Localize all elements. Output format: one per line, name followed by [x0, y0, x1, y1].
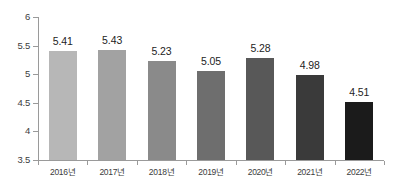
y-axis-tick-label: 5 — [2, 69, 30, 79]
bar-value-label: 5.41 — [40, 36, 86, 47]
y-axis-tick-label: 6 — [2, 12, 30, 22]
x-axis-category-label: 2017년 — [86, 168, 138, 177]
bar[interactable] — [246, 58, 274, 160]
x-axis-tick — [137, 161, 138, 165]
y-axis-tick-label: 4 — [2, 126, 30, 136]
bar-value-label: 5.05 — [188, 56, 234, 67]
x-axis-tick — [236, 161, 237, 165]
bar-value-label: 5.43 — [89, 35, 135, 46]
x-axis-line — [38, 160, 384, 161]
bar-value-label: 4.51 — [336, 87, 382, 98]
x-axis-tick — [186, 161, 187, 165]
y-axis-tick — [33, 103, 38, 104]
y-axis-tick — [33, 74, 38, 75]
y-axis-tick — [33, 46, 38, 47]
bar-value-label: 5.23 — [139, 46, 185, 57]
bar[interactable] — [98, 50, 126, 160]
bar[interactable] — [197, 71, 225, 160]
bar[interactable] — [49, 51, 77, 160]
x-axis-category-label: 2016년 — [37, 168, 89, 177]
bar-chart: 3.544.555.56 5.412016년5.432017년5.232018년… — [0, 0, 394, 190]
x-axis-tick — [335, 161, 336, 165]
y-axis-tick-label: 5.5 — [2, 41, 30, 51]
x-axis-tick — [38, 161, 39, 165]
bar-value-label: 5.28 — [237, 43, 283, 54]
x-axis-category-label: 2019년 — [185, 168, 237, 177]
x-axis-tick — [87, 161, 88, 165]
y-axis-tick — [33, 131, 38, 132]
bar[interactable] — [296, 75, 324, 160]
x-axis-category-label: 2022년 — [333, 168, 385, 177]
x-axis-tick — [384, 161, 385, 165]
x-axis-tick — [285, 161, 286, 165]
bar[interactable] — [148, 61, 176, 160]
bar[interactable] — [345, 102, 373, 160]
y-axis-tick — [33, 17, 38, 18]
x-axis-category-label: 2020년 — [234, 168, 286, 177]
x-axis-category-label: 2021년 — [284, 168, 336, 177]
x-axis-category-label: 2018년 — [136, 168, 188, 177]
y-axis-tick-label: 3.5 — [2, 155, 30, 165]
bar-value-label: 4.98 — [287, 60, 333, 71]
y-axis-tick-label: 4.5 — [2, 98, 30, 108]
plot-area: 3.544.555.56 5.412016년5.432017년5.232018년… — [0, 0, 394, 190]
